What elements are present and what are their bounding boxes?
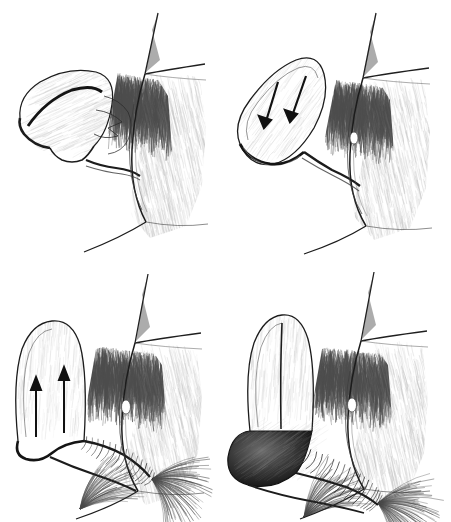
illustration-orgasmic [226,261,451,522]
panel-plateau: Plateau phase [0,261,225,522]
figure-root: Nonstimulated state [0,0,451,522]
illustration-nonstimulated [0,0,225,261]
panel-nonstimulated: Nonstimulated state [0,0,225,261]
panel-excitement: Excitement phase [226,0,451,261]
illustration-plateau [0,261,225,522]
illustration-excitement [226,0,451,261]
panel-orgasmic: Orgasmic phase [226,261,451,522]
